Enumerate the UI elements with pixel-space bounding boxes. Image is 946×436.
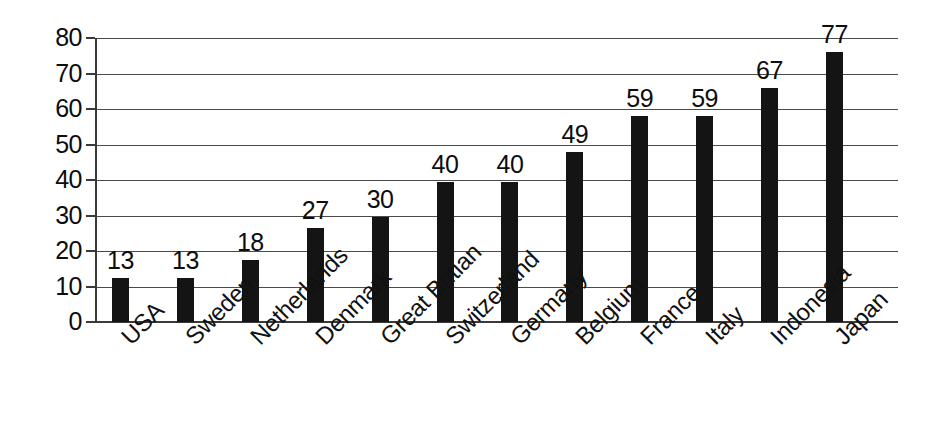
bar-value-label: 13 xyxy=(155,248,215,273)
bar-value-label: 59 xyxy=(675,86,735,111)
y-axis-tick xyxy=(86,73,95,75)
bar-value-label: 49 xyxy=(545,122,605,147)
bar xyxy=(177,278,194,322)
bar-value-label: 59 xyxy=(610,86,670,111)
bar-value-label: 30 xyxy=(350,187,410,212)
y-axis-tick-label: 40 xyxy=(30,167,82,192)
bar-value-label: 40 xyxy=(415,152,475,177)
y-axis-tick-label: 10 xyxy=(30,274,82,299)
y-axis-tick xyxy=(86,286,95,288)
bar xyxy=(112,278,129,322)
y-axis-tick-label: 60 xyxy=(30,96,82,121)
y-axis-tick-label: 0 xyxy=(30,309,82,334)
y-axis-tick xyxy=(86,37,95,39)
bar-value-label: 67 xyxy=(740,58,800,83)
y-axis-tick-label: 30 xyxy=(30,203,82,228)
y-axis-tick xyxy=(86,179,95,181)
y-axis-tick xyxy=(86,215,95,217)
x-axis-labels: USASwedenNetherlandsDenmarkGreat Britian… xyxy=(95,330,946,436)
y-axis-tick xyxy=(86,144,95,146)
y-axis-tick xyxy=(86,108,95,110)
y-axis-tick xyxy=(86,321,95,323)
y-axis-tick-label: 20 xyxy=(30,238,82,263)
y-axis-tick-label: 50 xyxy=(30,132,82,157)
bar xyxy=(761,88,778,322)
bar-value-label: 13 xyxy=(91,248,151,273)
y-axis-tick-label: 70 xyxy=(30,61,82,86)
bar-value-label: 77 xyxy=(804,22,864,47)
bar-value-label: 40 xyxy=(480,152,540,177)
bar-value-label: 18 xyxy=(220,230,280,255)
bar-chart: 01020304050607080 1313182730404049595967… xyxy=(0,0,946,436)
y-axis-tick-label: 80 xyxy=(30,25,82,50)
bar-value-label: 27 xyxy=(285,198,345,223)
